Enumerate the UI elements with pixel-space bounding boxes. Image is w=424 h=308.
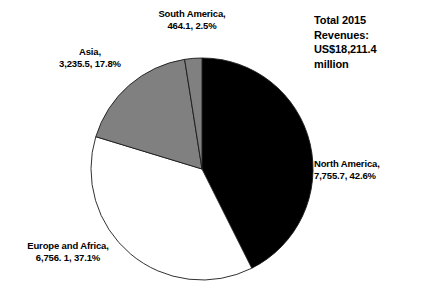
chart-title-line-3: US$18,211.4 <box>314 42 422 57</box>
pie-chart-figure: Total 2015 Revenues: US$18,211.4 million… <box>0 0 424 308</box>
slice-label-north-america-value: 7,755.7, 42.6% <box>314 170 424 182</box>
slice-label-europe-and-africa-name: Europe and Africa, <box>6 240 130 252</box>
slice-label-asia: Asia, 3,235.5, 17.8% <box>32 46 148 69</box>
chart-title-line-2: Revenues: <box>314 28 422 43</box>
chart-title: Total 2015 Revenues: US$18,211.4 million <box>314 13 422 71</box>
slice-label-europe-and-africa: Europe and Africa, 6,756. 1, 37.1% <box>6 240 130 263</box>
chart-title-line-1: Total 2015 <box>314 13 422 28</box>
slice-label-north-america: North America, 7,755.7, 42.6% <box>314 158 424 181</box>
slice-label-south-america: South America, 464.1, 2.5% <box>136 8 248 31</box>
slice-label-south-america-value: 464.1, 2.5% <box>136 20 248 32</box>
slice-label-asia-name: Asia, <box>32 46 148 58</box>
slice-label-europe-and-africa-value: 6,756. 1, 37.1% <box>6 252 130 264</box>
slice-label-asia-value: 3,235.5, 17.8% <box>32 58 148 70</box>
slice-label-south-america-name: South America, <box>136 8 248 20</box>
slice-label-north-america-name: North America, <box>314 158 424 170</box>
chart-title-line-4: million <box>314 57 422 72</box>
